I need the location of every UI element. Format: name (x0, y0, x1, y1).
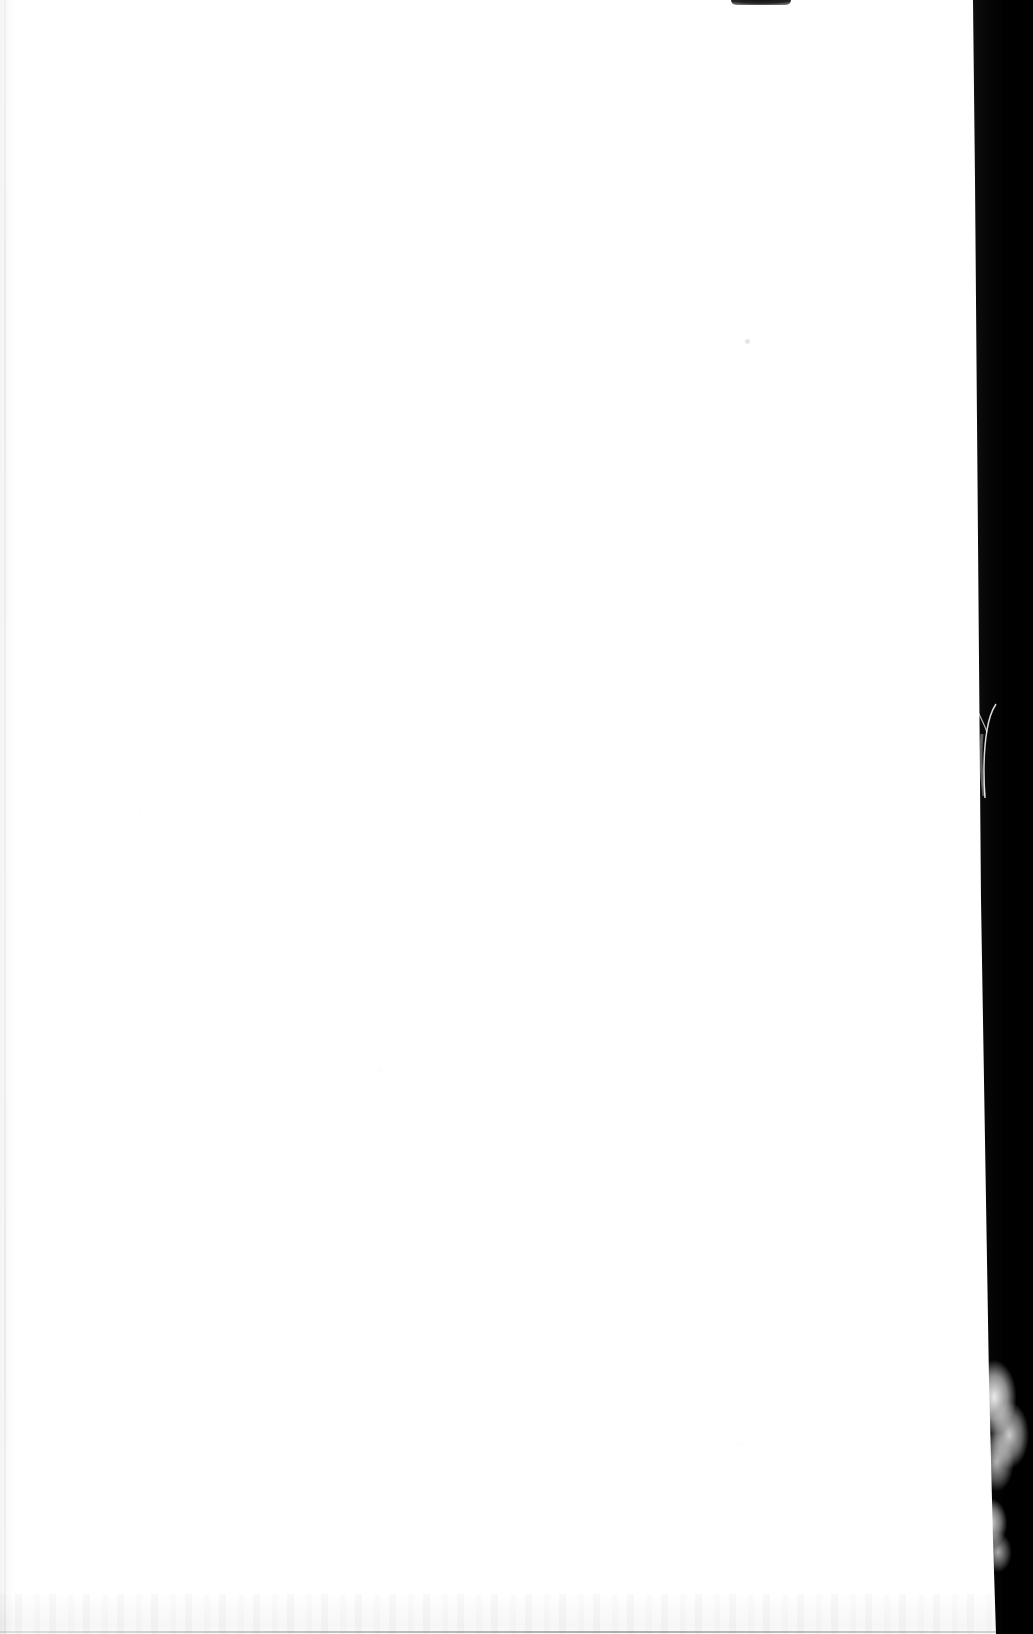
paper-grain-texture (0, 0, 1033, 1634)
dust-speck (744, 338, 751, 345)
scanned-page-canvas (0, 0, 1033, 1634)
paper-leaf (0, 0, 1033, 1634)
dark-sliver-top-edge (731, 0, 791, 5)
vertical-ccd-streak (4, 0, 6, 1634)
bottom-mottle-band (0, 1594, 1000, 1634)
left-edge-shading (0, 0, 14, 1634)
bottom-edge-rule (0, 1631, 996, 1633)
